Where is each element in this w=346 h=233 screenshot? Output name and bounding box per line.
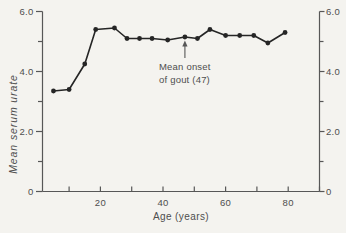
y-axis-tick-label-left: 4.0: [19, 66, 33, 77]
annotation-mean-onset-of-gout: Mean onset of gout (47): [159, 61, 211, 86]
x-axis-tick-label: 40: [157, 197, 168, 208]
annotation-line-2: of gout (47): [159, 74, 211, 87]
annotation-line-1: Mean onset: [159, 61, 211, 74]
data-point: [208, 27, 213, 32]
annotation-arrowhead-up: [182, 41, 187, 47]
data-point: [137, 36, 142, 41]
y-axis-tick-label-left: 6.0: [19, 6, 33, 17]
data-point: [112, 26, 117, 31]
y-axis-tick-label-right: 6.0: [326, 6, 340, 17]
x-axis-tick-label: 60: [220, 197, 231, 208]
data-point: [283, 30, 288, 35]
y-axis-tick-label-right: 0: [326, 186, 332, 197]
data-point: [93, 27, 98, 32]
data-point: [51, 89, 56, 94]
data-point: [251, 33, 256, 38]
data-point: [183, 35, 188, 40]
chart-figure: 6.06.04.04.02.02.00020406080 Mean serum …: [0, 0, 346, 233]
y-axis-tick-label-right: 2.0: [326, 126, 340, 137]
data-point: [150, 36, 155, 41]
data-point: [67, 87, 72, 92]
data-point: [125, 36, 130, 41]
x-axis-tick-label: 20: [95, 197, 106, 208]
y-axis-tick-label-right: 4.0: [326, 66, 340, 77]
y-axis-title: Mean serum urate: [7, 74, 19, 174]
x-axis-tick-label: 80: [283, 197, 294, 208]
data-point: [195, 36, 200, 41]
y-axis-tick-label-left: 0: [28, 186, 34, 197]
x-axis-title: Age (years): [153, 211, 209, 222]
serum-urate-line-chart: 6.06.04.04.02.02.00020406080: [0, 0, 346, 233]
data-point: [265, 41, 270, 46]
data-point: [165, 38, 170, 43]
y-axis-tick-label-left: 2.0: [19, 126, 33, 137]
data-point: [237, 33, 242, 38]
data-point: [223, 33, 228, 38]
data-point: [82, 62, 87, 67]
